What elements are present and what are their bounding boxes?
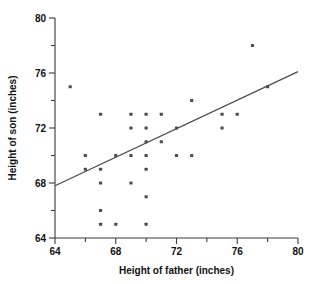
data-point [220,126,223,129]
data-point [114,223,117,226]
data-point [145,113,148,116]
x-axis-title: Height of father (inches) [119,265,234,276]
data-point [266,85,269,88]
data-point [190,154,193,157]
data-point [190,99,193,102]
y-tick-label-72: 72 [35,123,47,134]
data-point [99,168,102,171]
x-tick-label-76: 76 [232,246,244,257]
data-point [114,154,117,157]
data-point [129,113,132,116]
data-point [175,154,178,157]
plot-canvas: 6468727680 6468727680 Height of father (… [0,0,319,284]
data-point [145,154,148,157]
data-point [129,126,132,129]
data-point [69,85,72,88]
y-axis-title: Height of son (inches) [7,76,18,181]
y-tick-label-76: 76 [35,68,47,79]
data-point [84,154,87,157]
data-point [236,113,239,116]
data-points [69,44,270,226]
data-point [145,168,148,171]
x-tick-label-80: 80 [292,246,304,257]
y-tick-label-80: 80 [35,13,47,24]
data-point [175,126,178,129]
data-point [84,168,87,171]
data-point [99,209,102,212]
data-point [160,113,163,116]
data-point [145,195,148,198]
scatter-plot-figure: 6468727680 6468727680 Height of father (… [0,0,319,284]
x-tick-label-72: 72 [171,246,183,257]
data-point [99,181,102,184]
data-point [129,181,132,184]
data-point [99,223,102,226]
data-point [220,113,223,116]
data-point [145,223,148,226]
data-point [251,44,254,47]
data-point [129,154,132,157]
data-point [145,140,148,143]
data-point [145,126,148,129]
y-axis: 6468727680 [35,13,55,244]
data-point [99,113,102,116]
x-axis: 6468727680 [49,238,304,257]
x-tick-label-68: 68 [110,246,122,257]
y-tick-label-68: 68 [35,178,47,189]
y-tick-label-64: 64 [35,233,47,244]
data-point [160,140,163,143]
x-tick-label-64: 64 [49,246,61,257]
